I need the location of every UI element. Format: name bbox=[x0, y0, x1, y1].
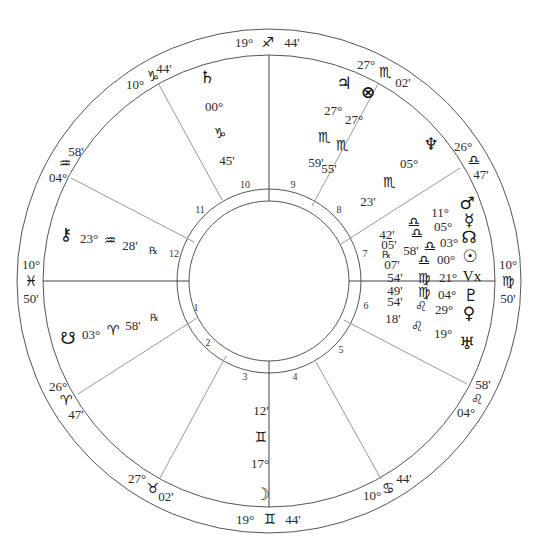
cusp-5-line bbox=[316, 362, 381, 479]
pluto-degree: 04° bbox=[438, 288, 456, 301]
cusp-3-line bbox=[160, 356, 226, 478]
house-number-10: 10 bbox=[240, 180, 250, 190]
cusp-11-degree: 10° bbox=[126, 78, 144, 91]
virgo-icon: ♍ bbox=[502, 274, 515, 288]
pisces-icon: ♓ bbox=[25, 274, 38, 288]
house-number-6: 6 bbox=[364, 301, 369, 311]
saturn-minutes: 45' bbox=[219, 154, 234, 167]
sagittarius-icon: ♐ bbox=[262, 35, 275, 49]
house-number-3: 3 bbox=[243, 372, 248, 382]
house-number-11: 11 bbox=[195, 205, 205, 215]
cusp-6-degree: 04° bbox=[457, 406, 475, 419]
cusp-9-degree: 27° bbox=[357, 58, 375, 71]
north-node-icon: ☊ bbox=[461, 229, 476, 246]
vertex-degree: 21° bbox=[439, 271, 457, 284]
cusp-9-minutes: 02' bbox=[395, 76, 410, 89]
sun-degree: 00° bbox=[437, 253, 455, 266]
chart-wheel bbox=[0, 0, 540, 550]
moon-minutes: 12' bbox=[253, 404, 268, 417]
jupiter-sign-icon: ♏ bbox=[318, 130, 331, 144]
chiron-sign-icon: ♒ bbox=[104, 233, 117, 247]
cusp-mc-degree: 19° bbox=[235, 36, 253, 49]
scorpio-icon: ♏ bbox=[379, 65, 392, 79]
cusp-12-degree: 04° bbox=[49, 171, 67, 184]
sun-sign-icon: ♎ bbox=[418, 253, 431, 267]
cusp-11-minutes: 44' bbox=[156, 62, 171, 75]
cusp-6-minutes: 58' bbox=[475, 378, 490, 391]
cusp-3-minutes: 02' bbox=[158, 490, 173, 503]
aquarius-icon: ♒ bbox=[59, 156, 72, 170]
cusp-8-degree: 26° bbox=[454, 140, 472, 153]
neptune-degree: 05° bbox=[400, 157, 418, 170]
cusp-mc-minutes: 44' bbox=[284, 36, 299, 49]
chiron-retrograde-icon: ℞ bbox=[149, 246, 158, 256]
venus-icon: ♀ bbox=[463, 305, 475, 322]
sun-icon: ☉ bbox=[462, 248, 477, 265]
south-node-minutes: 58' bbox=[125, 319, 140, 332]
vertex-sign-icon: ♍ bbox=[418, 271, 431, 285]
mercury-sign-icon: ♎ bbox=[411, 226, 424, 240]
cusp-2-minutes: 47' bbox=[68, 408, 83, 421]
moon-degree: 17° bbox=[251, 457, 269, 470]
house-number-8: 8 bbox=[337, 205, 342, 215]
saturn-sign-icon: ♑ bbox=[214, 126, 227, 140]
cancer-icon: ♋ bbox=[382, 481, 395, 495]
aries-icon: ♈ bbox=[60, 393, 73, 407]
south-node-icon: ☋ bbox=[60, 330, 75, 347]
neptune-icon: ♆ bbox=[423, 136, 438, 153]
pluto-sign-icon: ♍ bbox=[418, 285, 431, 299]
pluto-icon: ♇ bbox=[463, 287, 478, 304]
cusp-2-degree: 26° bbox=[49, 380, 67, 393]
uranus-minutes: 18' bbox=[385, 312, 400, 325]
moon-icon: ☽ bbox=[254, 486, 269, 503]
mars-degree: 11° bbox=[431, 206, 449, 219]
jupiter-icon: ♃ bbox=[336, 75, 351, 92]
house-number-12: 12 bbox=[169, 249, 179, 259]
venus-sign-icon: ♌ bbox=[415, 299, 428, 313]
cusp-dsc-minutes: 50' bbox=[500, 292, 515, 305]
part-of-fortune-minutes: 55' bbox=[321, 162, 336, 175]
libra-icon: ♎ bbox=[468, 153, 481, 167]
cusp-5-degree: 10° bbox=[363, 489, 381, 502]
part-of-fortune-sign-icon: ♏ bbox=[336, 138, 349, 152]
saturn-icon: ♄ bbox=[199, 69, 214, 86]
south-node-retrograde-icon: ℞ bbox=[150, 313, 159, 323]
house-number-7: 7 bbox=[363, 249, 368, 259]
saturn-degree: 00° bbox=[205, 100, 223, 113]
chiron-minutes: 28' bbox=[122, 239, 137, 252]
cusp-ic-degree: 19° bbox=[236, 513, 254, 526]
cusp-3-degree: 27° bbox=[128, 472, 146, 485]
uranus-icon: ♅ bbox=[459, 335, 474, 352]
cusp-dsc-degree: 10° bbox=[499, 258, 517, 271]
venus-minutes: 54' bbox=[387, 295, 402, 308]
house-number-4: 4 bbox=[293, 372, 298, 382]
south-node-degree: 03° bbox=[82, 328, 100, 341]
cusp-ic-minutes: 44' bbox=[285, 513, 300, 526]
part-of-fortune-icon: ⊗ bbox=[361, 84, 375, 101]
neptune-minutes: 23' bbox=[360, 195, 375, 208]
cusp-asc-degree: 10° bbox=[22, 258, 40, 271]
north-node-minutes: 58' bbox=[403, 244, 418, 257]
south-node-sign-icon: ♈ bbox=[107, 323, 120, 337]
neptune-sign-icon: ♏ bbox=[383, 175, 396, 189]
house-number-5: 5 bbox=[339, 345, 344, 355]
chiron-icon: ⚷ bbox=[60, 226, 72, 243]
chiron-degree: 23° bbox=[80, 232, 98, 245]
house-number-1: 1 bbox=[194, 303, 199, 313]
cusp-8-minutes: 47' bbox=[473, 168, 488, 181]
part-of-fortune-degree: 27° bbox=[345, 113, 363, 126]
north-node-degree: 03° bbox=[440, 236, 458, 249]
cusp-5-minutes: 44' bbox=[396, 472, 411, 485]
cusp-asc-minutes: 50' bbox=[23, 292, 38, 305]
uranus-degree: 19° bbox=[434, 327, 452, 340]
house-number-9: 9 bbox=[291, 180, 296, 190]
mercury-degree: 05° bbox=[434, 220, 452, 233]
vertex-icon: Vx bbox=[463, 269, 481, 283]
uranus-sign-icon: ♌ bbox=[411, 319, 424, 333]
house-ring-inner bbox=[189, 201, 349, 361]
moon-sign-icon: ♊ bbox=[255, 430, 268, 444]
gemini-icon: ♊ bbox=[264, 512, 277, 526]
house-number-2: 2 bbox=[206, 338, 211, 348]
north-node-sign-icon: ♎ bbox=[424, 239, 437, 253]
venus-degree: 29° bbox=[435, 303, 453, 316]
